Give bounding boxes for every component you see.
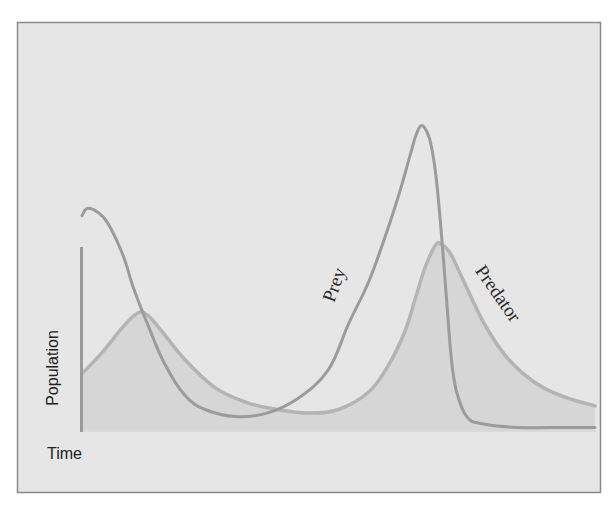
x-axis-label: Time bbox=[47, 445, 82, 462]
predator-prey-chart: Population Time Prey Predator bbox=[0, 0, 616, 516]
y-axis-label: Population bbox=[44, 330, 61, 406]
